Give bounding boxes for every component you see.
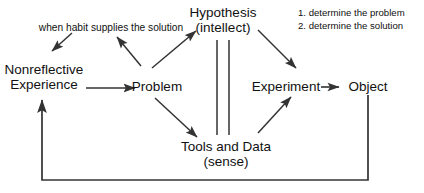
edge-habit-label-to-nonreflective-experience [52, 33, 72, 51]
edge-hypothesis-to-experiment [258, 30, 296, 68]
node-nonreflective-experience-line2: Experience [0, 77, 88, 92]
node-problem: Problem [131, 79, 183, 94]
node-hypothesis-line2: (intellect) [185, 20, 261, 35]
node-experiment-line1: Experiment [250, 79, 322, 94]
diagram-canvas: when habit supplies the solution 1. dete… [0, 0, 424, 193]
annotation-habit-label-text: when habit supplies the solution [22, 22, 200, 33]
node-object-line1: Object [342, 79, 394, 94]
edge-problem-to-habit-label [117, 37, 141, 66]
node-tools-and-data: Tools and Data (sense) [178, 139, 274, 169]
edge-problem-to-tools-and-data [155, 98, 197, 137]
annotation-steps-list: 1. determine the problem 2. determine th… [298, 6, 422, 32]
node-problem-line1: Problem [131, 79, 183, 94]
node-object: Object [342, 79, 394, 94]
node-tools-and-data-line2: (sense) [178, 154, 274, 169]
node-hypothesis: Hypothesis (intellect) [185, 5, 261, 35]
node-tools-and-data-line1: Tools and Data [178, 139, 274, 154]
node-hypothesis-line1: Hypothesis [185, 5, 261, 20]
node-nonreflective-experience: Nonreflective Experience [0, 62, 88, 92]
node-nonreflective-experience-line1: Nonreflective [0, 62, 88, 77]
edge-problem-to-hypothesis [152, 31, 196, 68]
annotation-step-1: 1. determine the problem [298, 6, 422, 19]
annotation-habit-label: when habit supplies the solution [22, 22, 200, 33]
edge-tools-and-data-to-experiment [258, 97, 291, 133]
annotation-step-2: 2. determine the solution [298, 19, 422, 32]
node-experiment: Experiment [250, 79, 322, 94]
